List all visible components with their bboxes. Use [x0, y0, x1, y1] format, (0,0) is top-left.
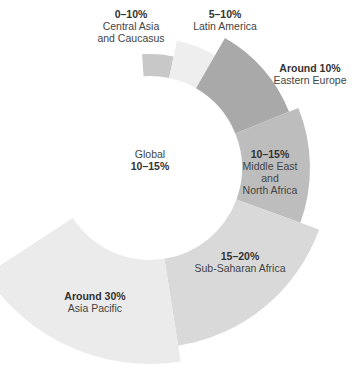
segment-label: 10–15%Middle EastandNorth Africa — [243, 148, 298, 196]
segment-name: North Africa — [243, 184, 298, 196]
segment-label: 15–20%Sub-Saharan Africa — [194, 250, 285, 274]
segment-name: Latin America — [193, 20, 257, 32]
segment-name: Eastern Europe — [274, 74, 347, 86]
segment-label: 0–10%Central Asiaand Caucasus — [97, 8, 164, 44]
segment-label: Around 30%Asia Pacific — [64, 290, 125, 314]
segment-value: 15–20% — [194, 250, 285, 262]
segment-name: Middle East — [243, 160, 298, 172]
segment-label: Around 10%Eastern Europe — [274, 62, 347, 86]
segment-name: and Caucasus — [97, 32, 164, 44]
segment-central-asia-and-caucasus — [142, 54, 174, 78]
segment-value: 5–10% — [193, 8, 257, 20]
rose-donut-chart — [0, 0, 357, 366]
segment-name: Sub-Saharan Africa — [194, 262, 285, 274]
center-label: Global 10–15% — [131, 148, 170, 172]
segment-value: 10–15% — [243, 148, 298, 160]
segment-name: Central Asia — [97, 20, 164, 32]
segment-value: Around 30% — [64, 290, 125, 302]
segment-name: Asia Pacific — [64, 302, 125, 314]
segment-label: 5–10%Latin America — [193, 8, 257, 32]
segment-value: Around 10% — [274, 62, 347, 74]
center-label-name: Global — [131, 148, 170, 160]
segment-value: 0–10% — [97, 8, 164, 20]
center-label-value: 10–15% — [131, 160, 170, 172]
segment-name: and — [243, 172, 298, 184]
